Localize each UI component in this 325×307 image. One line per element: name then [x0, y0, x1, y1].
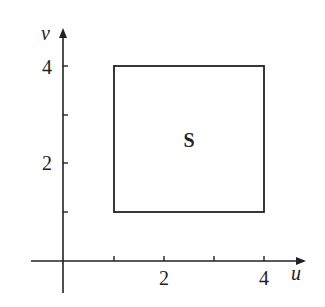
- u-tick-label-4: 4: [259, 267, 269, 289]
- v-axis-label: v: [41, 22, 50, 44]
- uv-plane-diagram: 2 4 2 4 u v S: [0, 0, 325, 307]
- u-tick-label-2: 2: [159, 267, 169, 289]
- v-tick-label-2: 2: [42, 152, 52, 174]
- region-s-label: S: [183, 129, 194, 151]
- v-tick-label-4: 4: [42, 56, 52, 78]
- u-axis-label: u: [291, 262, 301, 284]
